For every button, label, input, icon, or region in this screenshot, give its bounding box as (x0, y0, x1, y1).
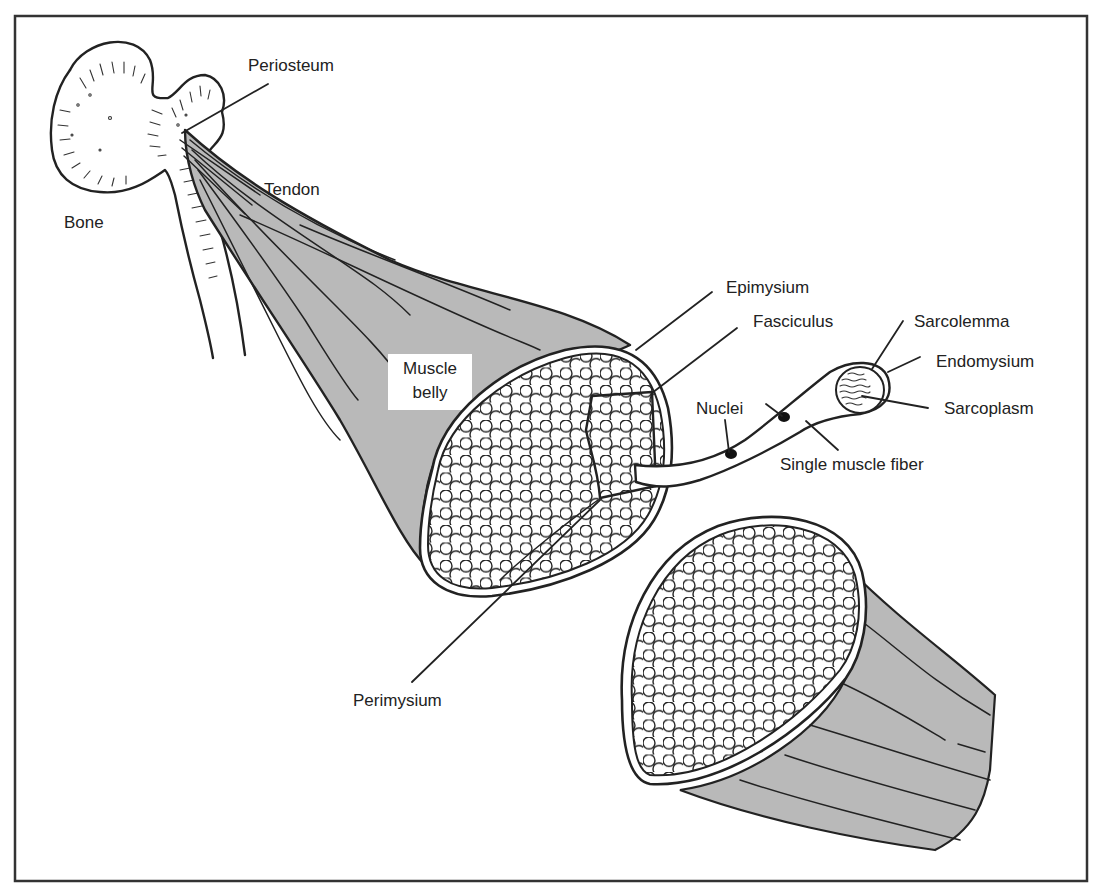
leader-sarcolemma (872, 321, 903, 369)
label-bone: Bone (64, 213, 104, 232)
leader-fasciculus (652, 328, 737, 393)
label-tendon: Tendon (264, 180, 320, 199)
leader-epimysium (636, 292, 712, 350)
label-endomysium: Endomysium (936, 352, 1034, 371)
label-epimysium: Epimysium (726, 278, 809, 297)
label-muscle-belly-line1: Muscle (403, 359, 457, 378)
label-single-muscle-fiber: Single muscle fiber (780, 455, 924, 474)
muscle-cross-section-rear (620, 510, 995, 850)
leader-nuclei-1 (725, 420, 729, 452)
leader-single-fiber (806, 421, 838, 450)
leader-endomysium (888, 357, 920, 372)
label-muscle-belly-line2: belly (413, 383, 448, 402)
label-sarcolemma: Sarcolemma (914, 312, 1010, 331)
nucleus-1 (725, 449, 737, 459)
diagram-canvas: Periosteum Tendon Bone Muscle belly Epim… (0, 0, 1102, 896)
label-sarcoplasm: Sarcoplasm (944, 399, 1034, 418)
leader-periosteum (182, 84, 268, 133)
leader-nuclei-2 (766, 404, 782, 416)
fiber-cross-section (836, 367, 884, 413)
label-fasciculus: Fasciculus (753, 312, 833, 331)
label-periosteum: Periosteum (248, 56, 334, 75)
label-nuclei: Nuclei (696, 399, 743, 418)
label-perimysium: Perimysium (353, 691, 442, 710)
